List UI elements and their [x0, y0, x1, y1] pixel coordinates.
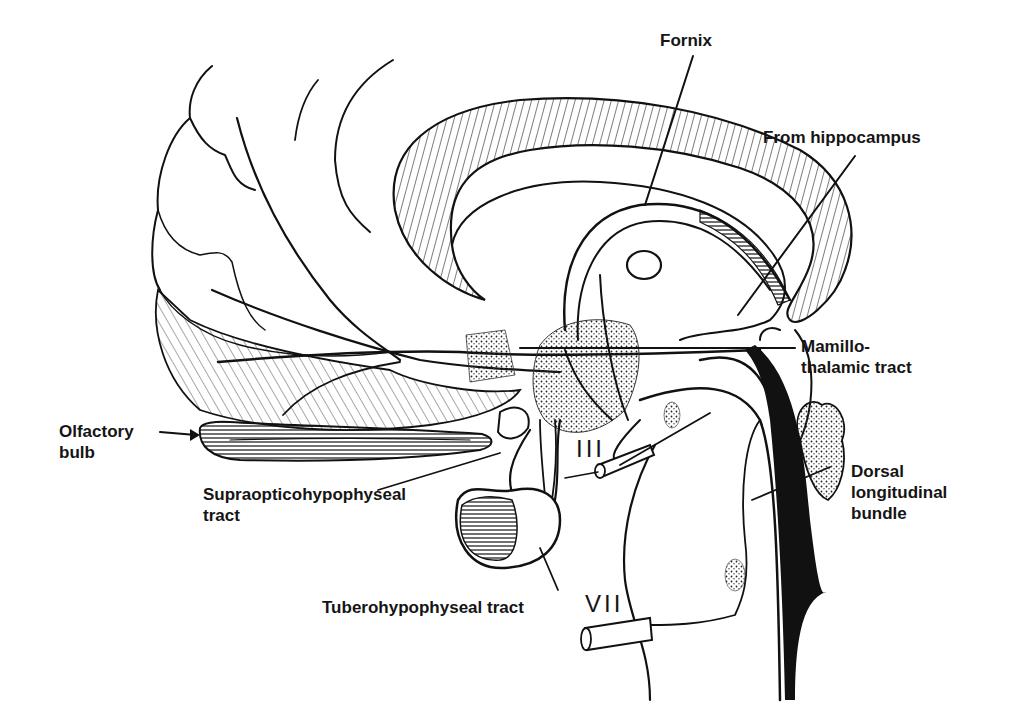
- olfactory-bulb-shape: [200, 422, 492, 461]
- label-supraoptic-line1: Supraopticohypophyseal: [203, 484, 406, 505]
- label-tuberohypophyseal-tract: Tuberohypophyseal tract: [322, 597, 524, 618]
- label-olfactory-line2: bulb: [59, 442, 95, 463]
- interthalamic-adhesion: [627, 251, 661, 279]
- label-supraoptic-line2: tract: [203, 505, 240, 526]
- label-cranial-nerve-vii: VII: [585, 590, 623, 618]
- label-mamillothalamic-line2: thalamic tract: [801, 357, 912, 378]
- label-dorsal-line2: longitudinal: [851, 482, 947, 503]
- label-olfactory-line1: Olfactory: [59, 421, 134, 442]
- label-from-hippocampus: From hippocampus: [763, 127, 921, 148]
- label-cranial-nerve-iii: III: [576, 435, 605, 463]
- hypothalamus-nuclei: [533, 320, 639, 433]
- brainstem: [640, 328, 826, 700]
- midbrain: [624, 445, 655, 700]
- label-dorsal-line3: bundle: [851, 503, 907, 524]
- orbital-surface: [156, 290, 520, 430]
- label-fornix: Fornix: [660, 30, 712, 51]
- septal-region: [466, 330, 515, 382]
- label-dorsal-line1: Dorsal: [851, 461, 904, 482]
- thalamus-region: [452, 182, 785, 340]
- optic-chiasm: [498, 408, 529, 439]
- label-mamillothalamic-line1: Mamillo-: [801, 336, 870, 357]
